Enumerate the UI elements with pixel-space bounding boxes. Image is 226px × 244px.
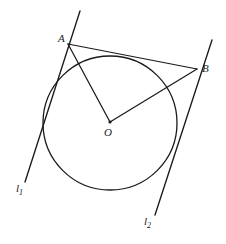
geometry-canvas — [0, 0, 226, 244]
segment-ab — [68, 44, 197, 69]
segment-ob — [110, 69, 197, 122]
geometry-figure: A B O l1 l2 — [0, 0, 226, 244]
label-point-a: A — [58, 33, 65, 44]
label-line-l2: l2 — [144, 216, 151, 230]
center-point-dot — [108, 120, 111, 123]
label-center-o: O — [104, 127, 112, 138]
label-line-l1-subscript: 1 — [19, 188, 23, 197]
label-point-b: B — [202, 63, 209, 74]
label-line-l2-subscript: 2 — [147, 221, 151, 230]
label-line-l1: l1 — [16, 183, 23, 197]
